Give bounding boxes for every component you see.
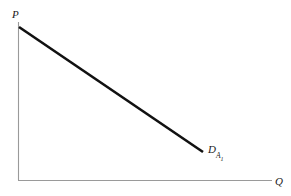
demand-curve-label-main: D [208, 143, 216, 155]
demand-curve-label: DA1 [208, 144, 224, 160]
demand-curve-label-subscript: A1 [216, 151, 224, 160]
demand-curve-line [19, 27, 203, 152]
demand-curve-label-subscript-number: 1 [221, 156, 224, 162]
demand-curve-figure: P Q DA1 [0, 0, 291, 196]
y-axis-label: P [12, 9, 19, 20]
x-axis-label: Q [275, 176, 283, 187]
plot-canvas [0, 0, 291, 196]
demand-curve-label-subscript-letter: A [216, 151, 221, 160]
